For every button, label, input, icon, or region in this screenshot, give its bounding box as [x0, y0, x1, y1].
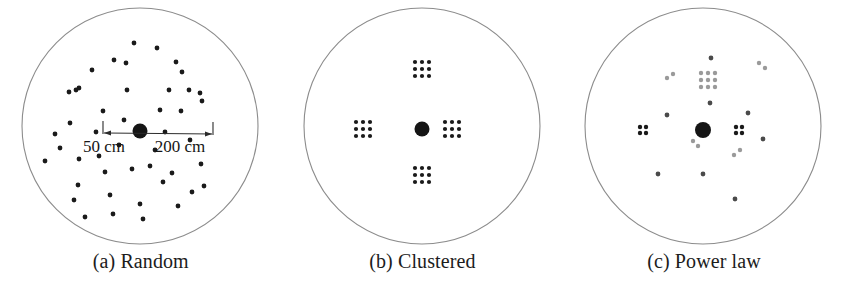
cluster-dot: [360, 134, 364, 138]
faint-point: [671, 72, 675, 76]
cluster-dot: [456, 120, 460, 124]
random-point: [112, 58, 117, 63]
random-point: [103, 170, 108, 175]
faint-cluster-dot: [706, 78, 710, 82]
single-point: [761, 137, 766, 142]
cluster-dot: [638, 131, 642, 135]
cluster-dot: [360, 120, 364, 124]
cluster-dot: [412, 173, 416, 177]
random-point: [174, 60, 179, 65]
faint-point: [732, 153, 736, 157]
panel-b-clustered: (b) Clustered: [282, 0, 564, 297]
cluster-dot: [412, 166, 416, 170]
cluster-dot: [456, 134, 460, 138]
panel-a-caption: (a) Random: [0, 250, 282, 273]
random-point: [176, 204, 181, 209]
faint-point: [738, 148, 742, 152]
random-point: [43, 159, 48, 164]
random-point: [53, 132, 58, 137]
cluster-dot: [412, 60, 416, 64]
cluster-dot: [353, 120, 357, 124]
faint-cluster-dot: [713, 78, 717, 82]
cluster-dot: [426, 180, 430, 184]
panel-c-svg: [563, 0, 845, 252]
cluster-dot: [426, 67, 430, 71]
center-hub-dot: [414, 122, 429, 137]
random-point: [190, 190, 195, 195]
cluster-dot: [456, 127, 460, 131]
single-point: [656, 172, 661, 177]
scale-label-inner: 50 cm: [83, 137, 125, 156]
random-point: [72, 198, 77, 203]
figure-panel-row: 50 cm 200 cm (a) Random (b) Clustered: [0, 0, 845, 297]
cluster-dot: [426, 74, 430, 78]
panel-a-svg: 50 cm 200 cm: [0, 0, 282, 252]
panel-c-plot-area: [563, 0, 845, 252]
panel-a-random: 50 cm 200 cm (a) Random: [0, 0, 282, 297]
center-hub-dot: [132, 124, 147, 139]
faint-point: [691, 139, 695, 143]
random-point: [94, 130, 99, 135]
faint-cluster-dot: [699, 85, 703, 89]
cluster-dot: [419, 74, 423, 78]
random-point: [124, 61, 129, 66]
random-point: [155, 46, 160, 51]
cluster-dot: [644, 125, 648, 129]
cluster-dot: [412, 74, 416, 78]
random-point: [148, 164, 153, 169]
scale-label-outer: 200 cm: [155, 137, 205, 156]
panel-b-plot-area: [282, 0, 564, 252]
cluster-dot: [367, 120, 371, 124]
faint-point: [763, 66, 767, 70]
dimension-line: [104, 133, 212, 134]
random-point: [108, 193, 113, 198]
cluster-dot: [419, 67, 423, 71]
random-point: [167, 88, 172, 93]
cluster-dot: [419, 60, 423, 64]
faint-point-group: [665, 61, 767, 157]
random-point: [77, 157, 82, 162]
random-point: [202, 184, 207, 189]
random-point: [122, 118, 127, 123]
random-point: [101, 109, 106, 114]
cluster-dot: [353, 134, 357, 138]
random-point: [170, 171, 175, 176]
random-point: [199, 162, 204, 167]
random-point: [180, 70, 185, 75]
single-point: [665, 113, 670, 118]
cluster-group: [353, 60, 460, 184]
faint-cluster-dot: [713, 85, 717, 89]
panel-b-svg: [282, 0, 564, 252]
cluster-dot: [449, 120, 453, 124]
random-point: [67, 90, 72, 95]
cluster-dot: [740, 125, 744, 129]
cluster-dot: [449, 127, 453, 131]
cluster-dot: [426, 60, 430, 64]
faint-cluster-dot: [706, 71, 710, 75]
random-point: [68, 121, 73, 126]
faint-cluster-dot: [699, 78, 703, 82]
cluster-dot: [426, 173, 430, 177]
faint-cluster-dot: [713, 71, 717, 75]
cluster-dot: [734, 125, 738, 129]
single-point: [733, 197, 738, 202]
panel-b-caption: (b) Clustered: [282, 250, 564, 273]
random-point: [138, 202, 143, 207]
faint-point: [757, 61, 761, 65]
random-point: [111, 212, 116, 217]
random-point: [141, 217, 146, 222]
random-point: [130, 167, 135, 172]
cluster-dot: [412, 67, 416, 71]
faint-point: [665, 76, 669, 80]
random-point: [83, 215, 88, 220]
cluster-dot: [740, 131, 744, 135]
cluster-dot: [442, 127, 446, 131]
arrowhead-right: [205, 131, 212, 136]
random-point: [58, 146, 63, 151]
random-point: [187, 88, 192, 93]
panel-c-caption: (c) Power law: [563, 250, 845, 273]
scale-annotation: [103, 121, 213, 137]
single-point: [701, 172, 706, 177]
random-point: [90, 68, 95, 73]
cluster-dot: [367, 134, 371, 138]
